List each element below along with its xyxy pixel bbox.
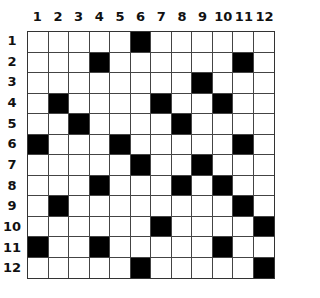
grid-cell-empty[interactable]	[49, 258, 70, 279]
grid-cell-empty[interactable]	[192, 217, 213, 238]
grid-cell-empty[interactable]	[49, 53, 70, 74]
grid-cell-empty[interactable]	[49, 135, 70, 156]
grid-cell-empty[interactable]	[172, 155, 193, 176]
grid-cell-empty[interactable]	[172, 196, 193, 217]
grid-cell-empty[interactable]	[233, 258, 254, 279]
grid-cell-empty[interactable]	[233, 114, 254, 135]
grid-cell-empty[interactable]	[90, 258, 111, 279]
grid-cell-empty[interactable]	[254, 135, 275, 156]
grid-cell-empty[interactable]	[213, 217, 234, 238]
grid-cell-empty[interactable]	[192, 258, 213, 279]
grid-cell-filled[interactable]	[233, 196, 254, 217]
grid-cell-empty[interactable]	[254, 94, 275, 115]
grid-cell-empty[interactable]	[254, 155, 275, 176]
grid-cell-empty[interactable]	[233, 176, 254, 197]
grid-cell-filled[interactable]	[151, 94, 172, 115]
grid-cell-empty[interactable]	[69, 53, 90, 74]
grid-cell-empty[interactable]	[49, 32, 70, 53]
grid-cell-empty[interactable]	[151, 176, 172, 197]
grid-cell-empty[interactable]	[110, 176, 131, 197]
grid-cell-empty[interactable]	[69, 258, 90, 279]
grid-cell-empty[interactable]	[192, 237, 213, 258]
grid-cell-empty[interactable]	[254, 176, 275, 197]
grid-cell-empty[interactable]	[28, 114, 49, 135]
grid-cell-empty[interactable]	[213, 196, 234, 217]
grid-cell-empty[interactable]	[28, 94, 49, 115]
grid-cell-empty[interactable]	[131, 135, 152, 156]
grid-cell-empty[interactable]	[69, 135, 90, 156]
grid-cell-empty[interactable]	[131, 237, 152, 258]
grid-cell-empty[interactable]	[49, 73, 70, 94]
grid-cell-empty[interactable]	[28, 217, 49, 238]
grid-cell-empty[interactable]	[172, 73, 193, 94]
grid-cell-empty[interactable]	[28, 155, 49, 176]
grid-cell-empty[interactable]	[110, 258, 131, 279]
grid-cell-empty[interactable]	[213, 53, 234, 74]
grid-cell-empty[interactable]	[49, 155, 70, 176]
grid-cell-filled[interactable]	[28, 237, 49, 258]
grid-cell-empty[interactable]	[213, 32, 234, 53]
grid-cell-empty[interactable]	[131, 196, 152, 217]
grid-cell-empty[interactable]	[192, 32, 213, 53]
grid-cell-empty[interactable]	[192, 114, 213, 135]
grid-cell-empty[interactable]	[90, 135, 111, 156]
grid-cell-filled[interactable]	[213, 176, 234, 197]
grid-cell-empty[interactable]	[110, 53, 131, 74]
grid-cell-filled[interactable]	[28, 135, 49, 156]
grid-cell-empty[interactable]	[49, 217, 70, 238]
grid-cell-filled[interactable]	[192, 155, 213, 176]
grid-cell-empty[interactable]	[131, 114, 152, 135]
grid-cell-filled[interactable]	[151, 217, 172, 238]
grid-cell-empty[interactable]	[233, 94, 254, 115]
grid-cell-filled[interactable]	[69, 114, 90, 135]
grid-cell-empty[interactable]	[90, 155, 111, 176]
grid-cell-empty[interactable]	[233, 73, 254, 94]
grid-cell-filled[interactable]	[233, 53, 254, 74]
grid-cell-empty[interactable]	[213, 135, 234, 156]
grid-cell-filled[interactable]	[110, 135, 131, 156]
grid-cell-empty[interactable]	[151, 196, 172, 217]
grid-cell-empty[interactable]	[172, 32, 193, 53]
grid-cell-empty[interactable]	[151, 32, 172, 53]
grid-cell-empty[interactable]	[28, 196, 49, 217]
grid-cell-empty[interactable]	[172, 217, 193, 238]
grid-cell-empty[interactable]	[254, 73, 275, 94]
grid-cell-empty[interactable]	[90, 217, 111, 238]
grid-cell-empty[interactable]	[192, 196, 213, 217]
grid-cell-filled[interactable]	[90, 176, 111, 197]
grid-cell-filled[interactable]	[131, 258, 152, 279]
grid-cell-empty[interactable]	[131, 94, 152, 115]
grid-cell-empty[interactable]	[151, 73, 172, 94]
grid-cell-filled[interactable]	[131, 32, 152, 53]
grid-cell-empty[interactable]	[254, 53, 275, 74]
grid-cell-empty[interactable]	[233, 217, 254, 238]
grid-cell-empty[interactable]	[254, 196, 275, 217]
grid-cell-empty[interactable]	[69, 196, 90, 217]
grid-cell-empty[interactable]	[192, 53, 213, 74]
grid-cell-empty[interactable]	[69, 217, 90, 238]
grid-cell-empty[interactable]	[110, 32, 131, 53]
grid-cell-empty[interactable]	[69, 237, 90, 258]
grid-cell-filled[interactable]	[213, 237, 234, 258]
grid-cell-filled[interactable]	[49, 94, 70, 115]
grid-cell-empty[interactable]	[233, 155, 254, 176]
grid-cell-empty[interactable]	[213, 155, 234, 176]
grid-cell-empty[interactable]	[49, 176, 70, 197]
grid-cell-empty[interactable]	[110, 155, 131, 176]
grid-cell-empty[interactable]	[254, 237, 275, 258]
grid-cell-empty[interactable]	[213, 73, 234, 94]
grid-cell-empty[interactable]	[110, 94, 131, 115]
grid-cell-empty[interactable]	[110, 196, 131, 217]
grid-cell-empty[interactable]	[254, 114, 275, 135]
grid-cell-empty[interactable]	[172, 135, 193, 156]
grid-cell-filled[interactable]	[172, 114, 193, 135]
grid-cell-empty[interactable]	[28, 73, 49, 94]
grid-cell-empty[interactable]	[69, 73, 90, 94]
grid-cell-empty[interactable]	[90, 196, 111, 217]
grid-cell-empty[interactable]	[69, 32, 90, 53]
grid-cell-empty[interactable]	[192, 135, 213, 156]
grid-cell-filled[interactable]	[213, 94, 234, 115]
grid-cell-filled[interactable]	[90, 237, 111, 258]
grid-cell-filled[interactable]	[192, 73, 213, 94]
grid-cell-empty[interactable]	[131, 176, 152, 197]
